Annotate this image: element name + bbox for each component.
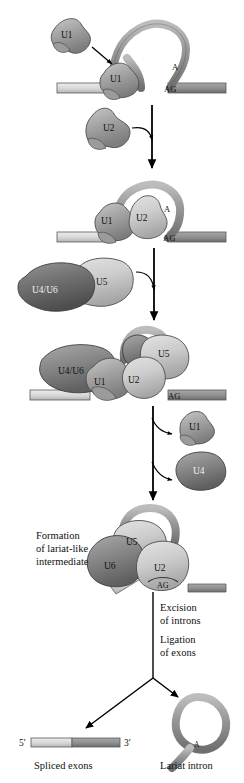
downstream-exon-bar (188, 584, 226, 592)
lariat-intron-caption: Lariat intron (160, 760, 213, 773)
ag-label-step4: AG (157, 581, 169, 590)
arrow-to-spliced-exons (86, 678, 153, 728)
branch-point-a-label: A (172, 62, 179, 72)
ligation-caption-line2: of exons (160, 647, 196, 660)
u1-label-step3: U1 (94, 377, 106, 387)
arrow-release-u4 (152, 462, 172, 480)
u1-free-label: U1 (61, 30, 73, 40)
excision-caption-line2: of introns (160, 615, 201, 628)
u1-released-label: U1 (189, 422, 201, 432)
u2-free-label: U2 (103, 123, 115, 133)
five-prime-label: 5′ (19, 737, 26, 750)
arrow-u1-to-site (92, 47, 112, 64)
ligation-caption-line1: Ligation (160, 634, 196, 647)
formation-caption-line3: intermediate (36, 556, 88, 569)
arrow-u4u6u5-join (136, 272, 154, 290)
u4u6-label-step3: U4/U6 (58, 366, 84, 376)
arrow-u2-join (132, 128, 152, 141)
u2-label-step4: U2 (154, 563, 166, 573)
u5-label-step3: U5 (158, 349, 170, 359)
figure-canvas: A AG U1 U1 U2 A AG U1 U2 U5 U4/U6 (0, 0, 244, 783)
arrow-to-lariat-intron (153, 678, 178, 697)
arrow-release-u1 (152, 418, 172, 434)
spliced-exons-caption: Spliced exons (34, 760, 93, 773)
branch-point-a-label: A (164, 204, 171, 214)
formation-caption-line1: Formation (36, 530, 80, 543)
u6-label-step4: U6 (104, 561, 116, 571)
excision-caption-line1: Excision (160, 602, 197, 615)
lariat-intron-product (172, 697, 226, 768)
u2-label-step2: U2 (136, 213, 148, 223)
u2-blob (129, 196, 167, 239)
ag-label-step2: AG (163, 233, 175, 243)
ag-label-step3: AG (168, 391, 180, 401)
u4u6-free-label: U4/U6 (32, 285, 58, 295)
u1-bound-label: U1 (110, 74, 122, 84)
formation-caption-line2: of lariat-like (36, 543, 88, 556)
u2-label-step3: U2 (128, 375, 140, 385)
ag-label-step1: AG (164, 84, 176, 94)
lariat-ring (176, 697, 227, 750)
u4-released-label: U4 (193, 466, 205, 476)
spliced-exon-left (31, 738, 72, 747)
splicing-pathway-diagram: A AG U1 U1 U2 A AG U1 U2 U5 U4/U6 (0, 0, 244, 783)
spliced-exons-product (31, 738, 120, 747)
u5-free-label: U5 (96, 277, 108, 287)
three-prime-label: 3′ (124, 737, 131, 750)
u5-label-step4: U5 (126, 537, 138, 547)
spliced-exon-right (72, 738, 120, 747)
lariat-branch-a-label: A (194, 740, 200, 749)
u1-label-step2: U1 (101, 216, 113, 226)
exon-right-bar (168, 83, 226, 93)
